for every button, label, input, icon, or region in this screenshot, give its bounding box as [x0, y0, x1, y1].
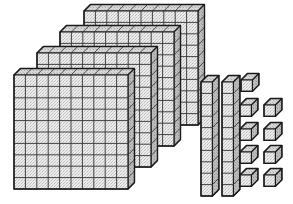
cube-3-front-face [264, 105, 275, 116]
cube-8-front-face [240, 175, 251, 186]
cube-5-front-face [264, 129, 275, 140]
cube-2-front-face [240, 105, 251, 116]
cube-7-front-face [264, 152, 275, 163]
base-ten-blocks-figure: Base-ten manipulative blocks: four hundr… [0, 0, 293, 204]
tens-rod [222, 76, 240, 197]
tens-rod [201, 76, 219, 197]
blocks-canvas [0, 0, 293, 204]
cube-6-front-face [240, 152, 251, 163]
cube-4-front-face [240, 129, 251, 140]
hundreds-flat [14, 69, 135, 190]
cube-1-front-face [241, 80, 252, 91]
cube-9-front-face [264, 175, 275, 186]
